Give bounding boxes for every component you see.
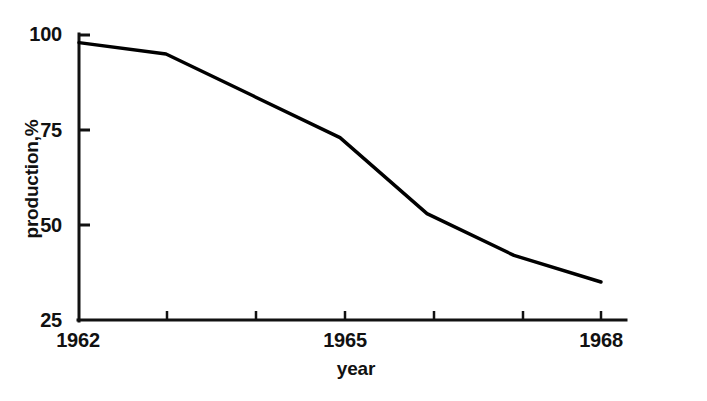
line-chart-figure: 100 75 50 25 1962 1965 1968 production,%…	[0, 0, 707, 401]
x-axis-title: year	[296, 358, 416, 380]
y-axis-ticks	[79, 35, 90, 225]
x-tick-label-1962: 1962	[33, 329, 123, 352]
production-line-series	[79, 43, 601, 282]
y-axis-title: production,%	[21, 79, 43, 279]
y-tick-label-100: 100	[16, 23, 62, 46]
x-tick-label-1965: 1965	[300, 329, 390, 352]
x-tick-label-1968: 1968	[556, 329, 646, 352]
